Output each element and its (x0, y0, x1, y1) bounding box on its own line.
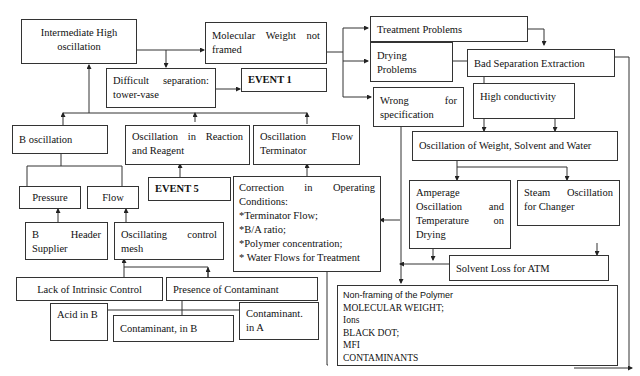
node-difficult-separation: Difficult separation: tower-vase (106, 68, 216, 108)
node-pressure: Pressure (19, 186, 81, 209)
node-acid-in-b: Acid in B (50, 303, 108, 341)
non-framing-item: BLACK DOT; (343, 327, 612, 340)
node-presence-contaminant: Presence of Contaminant (166, 277, 318, 301)
node-b-oscillation: B oscillation (12, 125, 108, 154)
non-framing-item: Ions (343, 314, 612, 327)
node-oscillating-control-mesh: Oscillating control mesh (114, 222, 224, 260)
node-oscillation-reaction-reagent: Oscillation in Reaction and Reagent (125, 125, 250, 165)
correction-title: Correction in Operating Conditions: (239, 181, 375, 209)
correction-items: *Terminator Flow; *B/A ratio; *Polymer c… (239, 209, 375, 265)
node-drying-problems: Drying Problems (370, 42, 453, 82)
non-framing-item: CONTAMINANTS (343, 352, 612, 365)
correction-item: * Water Flows for Treatment (239, 251, 375, 265)
correction-item: *B/A ratio; (239, 223, 375, 237)
node-b-header-supplier: B Header Supplier (25, 222, 108, 260)
non-framing-item: MFI (343, 339, 612, 352)
node-contaminant-in-b: Contaminant, in B (113, 315, 234, 342)
node-high-conductivity: High conductivity (473, 83, 575, 119)
node-event-1: EVENT 1 (241, 68, 327, 92)
node-steam-oscillation: Steam Oscillation for Changer (517, 180, 620, 226)
correction-item: *Terminator Flow; (239, 209, 375, 223)
node-non-framing-polymer: Non-framing of the Polymer MOLECULAR WEI… (337, 285, 618, 366)
non-framing-items: MOLECULAR WEIGHT; Ions BLACK DOT; MFI CO… (343, 302, 612, 365)
node-oscillation-flow-terminator: Oscillation Flow Terminator (253, 125, 360, 165)
node-wrong-for-specification: Wrong for specification (373, 87, 464, 127)
node-correction-operating-conditions: Correction in Operating Conditions: *Ter… (233, 176, 381, 272)
node-bad-separation-extraction: Bad Separation Extraction (467, 49, 615, 77)
node-flow: Flow (87, 186, 139, 209)
non-framing-title: Non-framing of the Polymer (343, 289, 612, 302)
node-molecular-weight-not-framed: Molecular Weight not framed (205, 22, 327, 64)
node-treatment-problems: Treatment Problems (370, 16, 528, 42)
node-solvent-loss-atm: Solvent Loss for ATM (449, 255, 609, 281)
node-contaminant-in-a: Contaminant. in A (239, 302, 319, 340)
node-event-5: EVENT 5 (148, 177, 231, 201)
node-oscillation-weight-solvent-water: Oscillation of Weight, Solvent and Water (412, 131, 618, 161)
node-amperage-oscillation: Amperage Oscillation and Temperature on … (409, 180, 511, 249)
correction-item: *Polymer concentration; (239, 237, 375, 251)
non-framing-item: MOLECULAR WEIGHT; (343, 302, 612, 315)
node-intermediate-high-oscillation: Intermediate High oscillation (21, 19, 137, 64)
node-lack-intrinsic-control: Lack of Intrinsic Control (16, 277, 163, 301)
